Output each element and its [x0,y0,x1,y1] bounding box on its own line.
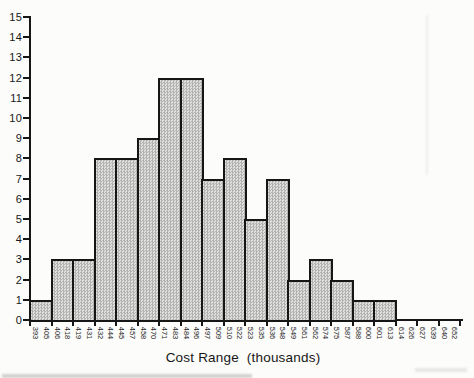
y-tick-label: 8 [0,151,22,165]
y-tick-label: 3 [0,252,22,266]
histogram-bar-497-509 [201,179,225,322]
x-tick-label-text: 652 [450,327,458,340]
histogram-bar-536-548 [266,179,290,322]
y-tick [23,16,30,18]
y-tick [23,258,30,260]
scan-artifact [2,374,252,378]
histogram-bar-562-574 [309,259,333,322]
y-tick [23,56,30,58]
histogram-bar-549-561 [287,280,311,322]
histogram-bar-445-457 [115,158,139,322]
x-axis-title: Cost Range (thousands) [12,350,474,365]
histogram-bar-601-613 [373,300,397,322]
y-axis-line [29,16,31,321]
histogram-bar-471-483 [158,78,182,322]
y-tick-label: 1 [0,293,22,307]
y-tick [23,77,30,79]
y-tick-label: 2 [0,273,22,287]
histogram-bar-458-470 [137,138,161,322]
y-tick [23,279,30,281]
histogram-bar-510-522 [223,158,247,322]
histogram-bar-523-535 [244,219,268,322]
y-tick-label: 9 [0,131,22,145]
histogram-bar-406-418 [51,259,75,322]
y-tick [23,238,30,240]
y-tick-label: 13 [0,50,22,64]
y-tick [23,198,30,200]
y-tick-label: 7 [0,172,22,186]
y-tick-label: 15 [0,10,22,24]
y-tick [23,218,30,220]
histogram-bar-432-444 [94,158,118,322]
y-tick [23,157,30,159]
y-tick [23,178,30,180]
histogram-bar-588-600 [352,300,376,322]
y-tick-label: 11 [0,91,22,105]
y-tick-label: 5 [0,212,22,226]
y-tick [23,36,30,38]
scan-artifact [415,368,467,372]
histogram-bar-393-405 [29,300,53,322]
histogram-bar-484-496 [180,78,204,322]
scan-artifact [426,15,428,175]
x-tick-label: 652 [444,322,466,344]
y-tick [23,97,30,99]
y-tick-label: 0 [0,313,22,327]
y-tick-label: 14 [0,30,22,44]
y-tick [23,117,30,119]
histogram-bar-419-431 [72,259,96,322]
y-tick-label: 6 [0,192,22,206]
histogram-bar-575-587 [330,280,354,322]
y-tick-label: 12 [0,71,22,85]
histogram-figure: 0123456789101112131415 39340540641841943… [0,0,474,378]
y-tick [23,137,30,139]
y-tick-label: 10 [0,111,22,125]
y-tick-label: 4 [0,232,22,246]
